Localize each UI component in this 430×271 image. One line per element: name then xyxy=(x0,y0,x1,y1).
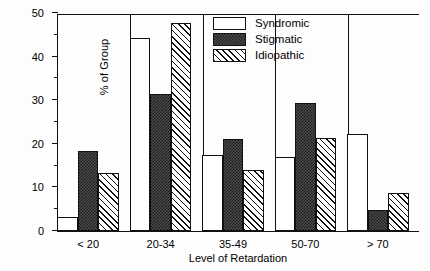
bar-syndromic xyxy=(57,217,78,231)
x-tick-label: 20-34 xyxy=(147,238,175,250)
legend-label: Idiopathic xyxy=(255,50,304,62)
bar-syndromic xyxy=(130,38,151,231)
y-tick-label: 20 xyxy=(32,138,44,149)
x-tick-label: 35-49 xyxy=(219,238,247,250)
legend-item-idiopathic: Idiopathic xyxy=(213,49,309,62)
bar-syndromic xyxy=(202,155,223,231)
legend-label: Syndromic xyxy=(255,18,309,30)
legend-label: Stigmatic xyxy=(255,34,302,46)
chart-legend: SyndromicStigmaticIdiopathic xyxy=(213,17,309,62)
bar-stigmatic xyxy=(150,94,171,231)
x-tick-label: < 20 xyxy=(77,238,99,250)
legend-swatch-syndromic xyxy=(213,17,246,30)
bar-syndromic xyxy=(275,157,296,231)
y-tick-label: 40 xyxy=(32,51,44,62)
x-axis-title: Level of Retardation xyxy=(57,252,419,264)
bar-idiopathic xyxy=(388,193,409,231)
bar-stigmatic xyxy=(78,151,99,231)
bar-syndromic xyxy=(347,134,368,231)
bar-idiopathic xyxy=(171,23,192,231)
legend-item-stigmatic: Stigmatic xyxy=(213,33,309,46)
legend-item-syndromic: Syndromic xyxy=(213,17,309,30)
y-tick-label: 50 xyxy=(32,8,44,19)
bar-idiopathic xyxy=(243,170,264,231)
legend-swatch-stigmatic xyxy=(213,33,246,46)
bar-stigmatic xyxy=(368,210,389,231)
legend-swatch-idiopathic xyxy=(213,49,246,62)
x-tick-label: 50-70 xyxy=(291,238,319,250)
bar-idiopathic xyxy=(316,138,337,231)
bar-stigmatic xyxy=(223,139,244,231)
bar-stigmatic xyxy=(295,103,316,231)
y-tick-label: 30 xyxy=(32,95,44,106)
bar-group xyxy=(57,15,119,231)
y-tick-label: 0 xyxy=(38,226,44,237)
bar-group xyxy=(347,15,409,231)
bar-group xyxy=(130,15,192,231)
y-tick-label: 10 xyxy=(32,182,44,193)
y-tick-major: 50 xyxy=(52,12,58,13)
bar-chart-figure: % of Group 01020304050 < 2020-3435-4950-… xyxy=(0,0,430,271)
bar-idiopathic xyxy=(98,173,119,231)
x-tick-label: > 70 xyxy=(367,238,389,250)
